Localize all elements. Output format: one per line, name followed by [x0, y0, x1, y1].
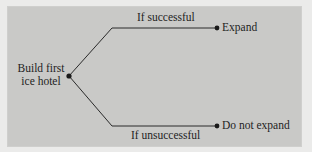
branch-line-unsuccessful	[69, 76, 216, 126]
root-label-line-1: Build first	[18, 62, 65, 74]
branch-condition-successful: If successful	[137, 11, 195, 24]
branch-condition-unsuccessful: If unsuccessful	[131, 129, 200, 142]
root-node-dot	[66, 73, 71, 78]
outcome-expand: Expand	[222, 21, 257, 34]
outcome-node-dot-expand	[215, 26, 220, 31]
root-label-line-2: ice hotel	[21, 75, 60, 87]
branch-line-successful	[69, 28, 216, 76]
figure-page: Build first ice hotel If successful If u…	[0, 0, 312, 152]
root-node-label: Build first ice hotel	[15, 62, 67, 88]
outcome-node-dot-do-not-expand	[215, 124, 220, 129]
outcome-do-not-expand: Do not expand	[222, 119, 290, 132]
